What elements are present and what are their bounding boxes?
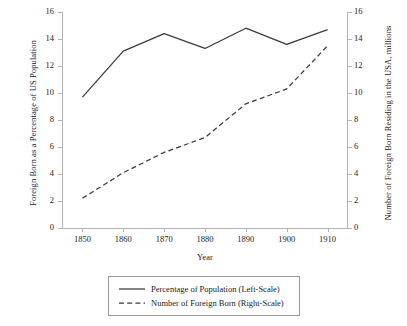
y-axis-right-tick-mark [348, 201, 352, 202]
chart-figure: Foreign Born as a Percentage of US Popul… [0, 0, 407, 326]
legend-item-number-of-foreign-born: Number of Foreign Born (Right-Scale) [109, 296, 299, 310]
y-axis-right-tick-label: 2 [354, 195, 394, 205]
x-axis-tick-label: 1900 [264, 234, 310, 244]
y-axis-right-tick-mark [348, 228, 352, 229]
y-axis-left-tick-label: 0 [14, 222, 54, 232]
y-axis-right-tick-mark [348, 66, 352, 67]
y-axis-left-tick-label: 8 [14, 114, 54, 124]
y-axis-left-tick-label: 14 [14, 33, 54, 43]
y-axis-right-tick-mark [348, 120, 352, 121]
x-axis-tick-label: 1880 [182, 234, 228, 244]
legend-dashed-line-icon [119, 298, 145, 308]
y-axis-left-tick-label: 10 [14, 87, 54, 97]
x-axis-tick-label: 1890 [223, 234, 269, 244]
x-axis-tick-label: 1870 [141, 234, 187, 244]
legend-solid-line-icon [119, 284, 145, 294]
plot-area: 0246810121416 0246810121416 185018601870… [62, 12, 348, 228]
legend-label-percentage-of-population: Percentage of Population (Left-Scale) [151, 284, 280, 294]
y-axis-right-tick-label: 8 [354, 114, 394, 124]
y-axis-right-tick-label: 12 [354, 60, 394, 70]
chart-legend: Percentage of Population (Left-Scale) Nu… [108, 276, 300, 316]
y-axis-right-tick-mark [348, 12, 352, 13]
series-line-number-of-foreign-born [82, 46, 327, 199]
y-axis-right-tick-mark [348, 39, 352, 40]
legend-label-number-of-foreign-born: Number of Foreign Born (Right-Scale) [151, 298, 284, 308]
x-axis-tick-label: 1910 [305, 234, 351, 244]
y-axis-right-tick-label: 10 [354, 87, 394, 97]
y-axis-right-tick-label: 14 [354, 33, 394, 43]
y-axis-left-tick-label: 2 [14, 195, 54, 205]
x-axis-tick-label: 1850 [59, 234, 105, 244]
y-axis-left-tick-label: 16 [14, 6, 54, 16]
y-axis-right-tick-label: 4 [354, 168, 394, 178]
x-axis-tick-label: 1860 [100, 234, 146, 244]
series-line-percentage-of-population [82, 28, 327, 97]
x-axis-title: Year [62, 252, 348, 262]
y-axis-right-tick-label: 0 [354, 222, 394, 232]
y-axis-left-tick-label: 12 [14, 60, 54, 70]
y-axis-right-tick-mark [348, 174, 352, 175]
y-axis-right-tick-mark [348, 93, 352, 94]
y-axis-right-tick-mark [348, 147, 352, 148]
y-axis-right-tick-label: 16 [354, 6, 394, 16]
y-axis-right-tick-label: 6 [354, 141, 394, 151]
y-axis-left-tick-label: 6 [14, 141, 54, 151]
y-axis-left-tick-label: 4 [14, 168, 54, 178]
legend-item-percentage-of-population: Percentage of Population (Left-Scale) [109, 282, 299, 296]
series-container [62, 12, 348, 229]
